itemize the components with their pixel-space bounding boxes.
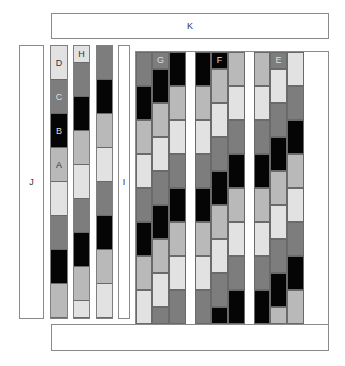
grid-cell — [287, 120, 304, 154]
grid-cell — [195, 52, 211, 86]
column-segment — [74, 165, 89, 199]
grid-cell — [228, 52, 245, 86]
column-segment — [97, 216, 112, 250]
grid-cell — [195, 120, 211, 154]
grid-cell — [270, 137, 287, 171]
grid-cell: E — [270, 52, 287, 69]
grid-cell — [270, 103, 287, 137]
grid-cell — [169, 154, 186, 188]
grid-subcolumn — [136, 52, 152, 324]
grid-subcolumn: F — [211, 52, 228, 324]
grid-cell — [211, 205, 228, 239]
column-segment: D — [51, 46, 67, 80]
column-segment — [74, 63, 89, 97]
grid-subcolumn — [169, 52, 186, 324]
grid-cell — [270, 307, 287, 324]
grid-subcolumn — [287, 52, 304, 324]
grid-cell — [211, 137, 228, 171]
grid-cell — [169, 222, 186, 256]
grid-cell — [270, 205, 287, 239]
column-segment — [97, 114, 112, 148]
grid-cell — [152, 137, 169, 171]
grid-cell — [211, 171, 228, 205]
grid-cell — [287, 222, 304, 256]
grid-subcolumn: E — [270, 52, 287, 324]
column-segment — [97, 80, 112, 114]
grid-container: G F E — [135, 51, 329, 325]
grid-cell — [254, 256, 270, 290]
grid-cell — [136, 86, 152, 120]
grid-cell — [136, 120, 152, 154]
grid-cell — [195, 154, 211, 188]
top-bar-k: K — [51, 13, 329, 39]
grid-cell — [169, 290, 186, 324]
column-segment — [51, 216, 67, 250]
column-segment — [74, 267, 89, 301]
column-segment — [97, 148, 112, 182]
grid-cell — [270, 171, 287, 205]
column-segment — [74, 131, 89, 165]
grid-cell — [152, 205, 169, 239]
grid-cell — [270, 239, 287, 273]
grid-cell — [169, 188, 186, 222]
column-3 — [96, 45, 113, 319]
grid-subcolumn — [254, 52, 270, 324]
grid-cell — [287, 188, 304, 222]
grid-subcolumn — [228, 52, 245, 324]
grid-cell: F — [211, 52, 228, 69]
grid-cell — [169, 52, 186, 86]
grid-cell — [228, 154, 245, 188]
column-segment: B — [51, 114, 67, 148]
grid-cell — [228, 222, 245, 256]
grid-cell — [169, 86, 186, 120]
grid-cell — [228, 120, 245, 154]
grid-cell — [136, 256, 152, 290]
grid-cell — [169, 256, 186, 290]
grid-cell — [254, 290, 270, 324]
group-g: G — [136, 52, 185, 324]
column-segment — [51, 284, 67, 318]
grid-cell — [136, 188, 152, 222]
column-segment — [97, 46, 112, 80]
grid-subcolumn: G — [152, 52, 169, 324]
group-f: F — [195, 52, 245, 324]
column-h: H — [73, 45, 90, 319]
grid-cell — [254, 188, 270, 222]
grid-cell — [211, 103, 228, 137]
grid-cell — [211, 239, 228, 273]
grid-cell — [211, 69, 228, 103]
column-segment: H — [74, 46, 89, 63]
grid-cell — [195, 86, 211, 120]
grid-cell — [211, 273, 228, 307]
grid-cell — [136, 52, 152, 86]
grid-cell — [152, 307, 169, 324]
grid-cell — [152, 273, 169, 307]
grid-cell — [195, 290, 211, 324]
bottom-bar — [51, 324, 329, 351]
column-segment — [51, 182, 67, 216]
grid-cell — [287, 290, 304, 324]
column-segment — [74, 199, 89, 233]
grid-cell — [254, 86, 270, 120]
column-segment: C — [51, 80, 67, 114]
grid-cell — [195, 188, 211, 222]
grid-cell: G — [152, 52, 169, 69]
grid-cell — [136, 290, 152, 324]
grid-cell — [211, 307, 228, 324]
grid-cell — [287, 154, 304, 188]
column-segment — [97, 284, 112, 318]
column-segment — [74, 97, 89, 131]
grid-cell — [228, 256, 245, 290]
column-segment — [51, 250, 67, 284]
column-segment — [74, 233, 89, 267]
grid-cell — [254, 222, 270, 256]
grid-cell — [169, 120, 186, 154]
column-segment — [97, 182, 112, 216]
grid-cell — [254, 52, 270, 86]
grid-cell — [152, 239, 169, 273]
column-dcba: DCBA — [50, 45, 68, 319]
grid-cell — [287, 52, 304, 86]
narrow-frame-i: I — [118, 45, 130, 319]
grid-cell — [254, 120, 270, 154]
left-frame-label: J — [20, 177, 43, 187]
